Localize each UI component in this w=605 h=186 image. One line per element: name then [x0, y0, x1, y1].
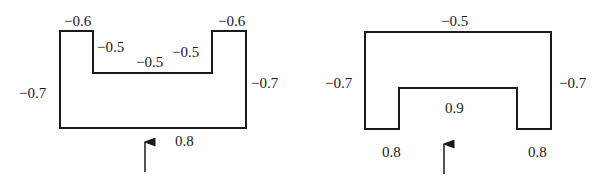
pressure-coefficient-label: −0.5	[136, 54, 163, 70]
pressure-coefficient-label: −0.7	[19, 85, 47, 101]
diagram-right: −0.5−0.7−0.70.90.80.8	[325, 13, 587, 174]
pressure-coefficient-label: −0.6	[218, 13, 246, 29]
pressure-coefficient-label: −0.6	[64, 13, 92, 29]
pressure-coefficient-label: 0.8	[175, 133, 194, 149]
pressure-coefficient-label: −0.5	[441, 13, 468, 29]
pressure-coefficient-label: −0.7	[559, 75, 587, 91]
pressure-coefficient-label: −0.5	[97, 39, 124, 55]
pressure-coefficient-label: −0.7	[325, 75, 353, 91]
pressure-coefficient-label: 0.9	[445, 100, 464, 116]
pressure-coefficient-label: 0.8	[528, 144, 547, 160]
pressure-coefficient-label: 0.8	[382, 144, 401, 160]
wind-pressure-coefficient-diagram: −0.6−0.6−0.5−0.5−0.5−0.7−0.70.8 −0.5−0.7…	[0, 0, 605, 186]
pressure-coefficient-label: −0.5	[172, 44, 199, 60]
pressure-coefficient-label: −0.7	[251, 75, 279, 91]
building-outline-left	[60, 31, 246, 128]
diagram-left: −0.6−0.6−0.5−0.5−0.5−0.7−0.70.8	[19, 13, 279, 172]
